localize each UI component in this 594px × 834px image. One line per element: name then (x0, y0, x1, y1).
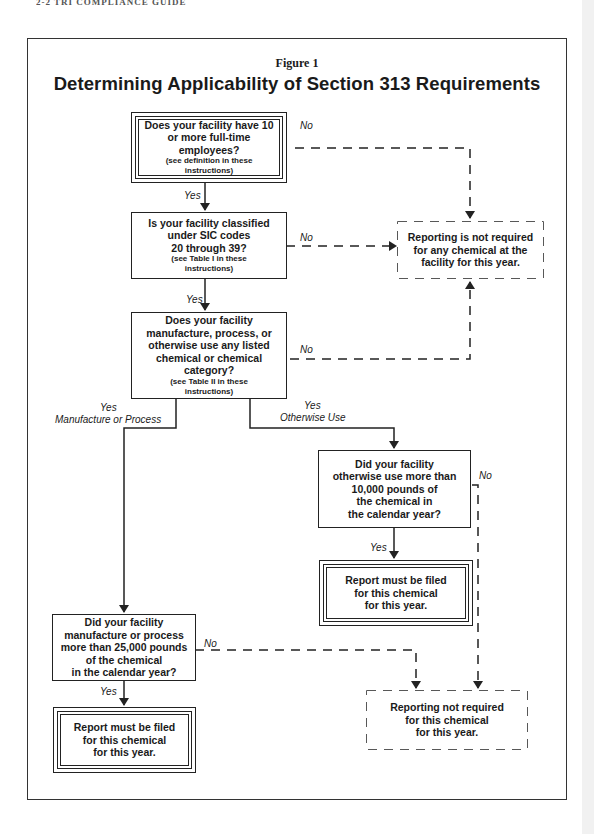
node-listed-line: manufacture, process, or (146, 327, 271, 340)
node-not-required-chemical-line: for this year. (416, 726, 478, 739)
node-otherwise-use-threshold: Did your facility otherwise use more tha… (318, 450, 471, 528)
node-listed-note: (see Table II in these (170, 377, 248, 387)
node-otherwise-line: the chemical in (357, 495, 433, 508)
edge-label-yes: Yes (370, 542, 387, 554)
node-report-manufacture-line: Report must be filed (74, 721, 176, 734)
node-not-required-chemical: Reporting not required for this chemical… (367, 691, 527, 749)
node-employees-note: instructions) (185, 166, 233, 176)
edge-label-otherwise-use: Otherwise Use (280, 412, 346, 424)
edge-label-yes: Yes (100, 686, 117, 698)
node-manufacture-line: of the chemical (86, 654, 162, 667)
node-employees-line: Does your facility have 10 (145, 119, 274, 132)
edge-label-manufacture-or-process: Manufacture or Process (55, 414, 161, 426)
node-otherwise-line: otherwise use more than (333, 470, 457, 483)
node-not-required-any-line: Reporting is not required (408, 231, 533, 244)
node-listed-line: chemical or chemical (156, 352, 262, 365)
node-report-filed-manufacture: Report must be filed for this chemical f… (53, 707, 196, 773)
node-listed-note: instructions) (185, 387, 233, 397)
edge-label-yes-otherwise: Yes (304, 400, 321, 412)
node-report-otherwise-line: for this chemical (354, 587, 437, 600)
node-manufacture-line: more than 25,000 pounds (61, 641, 188, 654)
node-not-required-chemical-line: for this chemical (405, 714, 488, 727)
node-employees-line: employees? (179, 144, 240, 157)
edge-label-yes: Yes (184, 190, 201, 202)
node-report-otherwise-line: Report must be filed (345, 574, 447, 587)
node-employees-line: or more full-time (168, 131, 251, 144)
node-report-manufacture-line: for this year. (93, 746, 155, 759)
node-sic-note: (see Table I in these (171, 254, 246, 264)
edge-label-no: No (479, 470, 492, 482)
node-sic-note: instructions) (185, 264, 233, 274)
node-manufacture-line: manufacture or process (64, 629, 184, 642)
node-listed-line: category? (184, 364, 234, 377)
node-otherwise-line: Did your facility (355, 458, 434, 471)
edge-label-no: No (300, 232, 313, 244)
node-otherwise-line: 10,000 pounds of (352, 483, 438, 496)
node-manufacture-line: Did your facility (85, 616, 164, 629)
edge-label-yes-manufacture: Yes (100, 402, 117, 414)
edge-label-no: No (300, 344, 313, 356)
edge-label-yes: Yes (186, 294, 203, 306)
node-sic-codes: Is your facility classified under SIC co… (131, 212, 287, 279)
node-listed-chemical: Does your facility manufacture, process,… (131, 312, 287, 399)
node-report-filed-otherwise: Report must be filed for this chemical f… (319, 560, 473, 626)
node-otherwise-line: the calendar year? (348, 508, 441, 521)
node-sic-line: under SIC codes (168, 229, 251, 242)
node-not-required-any: Reporting is not required for any chemic… (398, 222, 543, 278)
node-employees-note: (see definition in these (166, 156, 253, 166)
node-report-otherwise-line: for this year. (365, 599, 427, 612)
node-report-manufacture-line: for this chemical (83, 734, 166, 747)
node-employees: Does your facility have 10 or more full-… (131, 112, 287, 183)
node-listed-line: otherwise use any listed (148, 339, 269, 352)
node-sic-line: 20 through 39? (171, 242, 246, 255)
node-manufacture-threshold: Did your facility manufacture or process… (52, 614, 196, 681)
node-not-required-any-line: facility for this year. (421, 256, 520, 269)
node-sic-line: Is your facility classified (148, 217, 269, 230)
node-not-required-any-line: for any chemical at the (414, 244, 528, 257)
edge-label-no: No (300, 120, 313, 132)
node-listed-line: Does your facility (165, 314, 253, 327)
node-not-required-chemical-line: Reporting not required (390, 701, 504, 714)
edge-label-no: No (204, 638, 217, 650)
node-manufacture-line: in the calendar year? (71, 666, 176, 679)
